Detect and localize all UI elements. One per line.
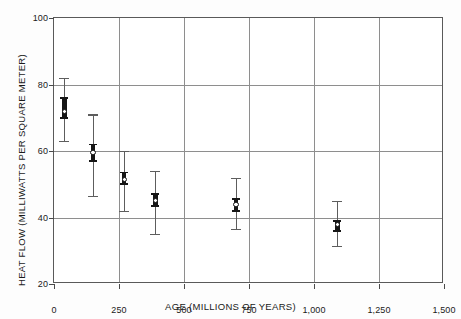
x-tick-1500 (444, 284, 445, 289)
whisker-cap-lower (59, 141, 69, 142)
y-tick-label-20: 20 (38, 279, 54, 289)
whisker-cap-lower (332, 246, 342, 247)
whisker-cap-lower (119, 211, 129, 212)
gridline-horizontal-60 (54, 151, 442, 152)
x-tick-0 (54, 284, 55, 289)
standard-error-bar (62, 98, 66, 118)
y-tick-label-60: 60 (38, 146, 54, 156)
whisker-cap-upper (231, 178, 241, 179)
gridline-vertical-1000 (314, 18, 315, 282)
gridline-horizontal-80 (54, 85, 442, 86)
gridline-horizontal-40 (54, 218, 442, 219)
x-tick-750 (249, 284, 250, 289)
se-cap-lower (60, 117, 68, 119)
mean-marker (233, 202, 238, 207)
whisker-cap-upper (150, 171, 160, 172)
se-cap-lower (151, 205, 159, 207)
se-cap-upper (60, 97, 68, 99)
whisker-cap-upper (119, 151, 129, 152)
se-cap-lower (89, 160, 97, 162)
mean-marker (62, 109, 67, 114)
y-tick-label-40: 40 (38, 213, 54, 223)
se-cap-upper (232, 198, 240, 200)
se-cap-upper (120, 172, 128, 174)
x-tick-1250 (379, 284, 380, 289)
x-tick-1000 (314, 284, 315, 289)
whisker-cap-lower (88, 196, 98, 197)
plot-area: 02505007501,0001,2501,500 20406080100 (53, 17, 443, 283)
y-tick-label-100: 100 (33, 13, 54, 23)
chart-figure: 02505007501,0001,2501,500 20406080100 AG… (0, 0, 461, 319)
whisker-cap-lower (150, 234, 160, 235)
whisker-cap-upper (88, 114, 98, 115)
y-tick-label-80: 80 (38, 80, 54, 90)
whisker-cap-upper (59, 78, 69, 79)
mean-marker (90, 150, 95, 155)
mean-marker (335, 222, 340, 227)
whisker-cap-lower (231, 229, 241, 230)
gridline-vertical-750 (249, 18, 250, 282)
whisker-cap-upper (332, 201, 342, 202)
y-axis-title: HEAT FLOW (MILLIWATTS PER SQUARE METER) (16, 54, 27, 286)
gridline-vertical-250 (119, 18, 120, 282)
x-tick-500 (184, 284, 185, 289)
x-tick-250 (119, 284, 120, 289)
se-cap-lower (333, 230, 341, 232)
gridline-vertical-500 (184, 18, 185, 282)
se-cap-upper (151, 193, 159, 195)
mean-marker (122, 177, 127, 182)
se-cap-upper (89, 144, 97, 146)
se-cap-lower (120, 183, 128, 185)
se-cap-lower (232, 210, 240, 212)
x-axis-title: AGE (MILLIONS OF YEARS) (0, 301, 461, 312)
gridline-vertical-1250 (379, 18, 380, 282)
